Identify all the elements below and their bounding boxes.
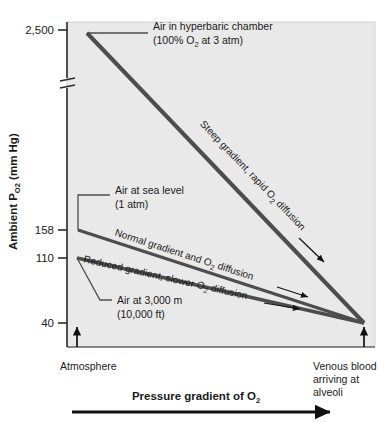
- annotation-hyperbaric-line1: Air in hyperbaric chamber: [153, 20, 273, 32]
- figure-container: 2,500 158 110 40 Ambient PO2 (mm Hg) Air…: [0, 0, 389, 422]
- annotation-altitude-line2: (10,000 ft): [117, 308, 165, 320]
- y-axis-title-post: (mm Hg): [7, 133, 19, 183]
- annotation-sealevel-line1: Air at sea level: [115, 184, 184, 196]
- x-category-label-venous-line2: arriving at: [313, 373, 359, 385]
- plot-panel: [67, 22, 375, 347]
- x-axis-title-pre: Pressure gradient of O: [132, 390, 256, 402]
- annotation-sealevel-line2: (1 atm): [115, 198, 148, 210]
- x-category-label-venous-line1: Venous blood: [313, 360, 377, 372]
- annotation-hyperbaric-post: at 3 atm): [199, 34, 243, 46]
- x-category-label-venous-line3: alveoli: [313, 386, 343, 398]
- annotation-hyperbaric-pre: (100% O: [153, 34, 194, 46]
- oxygen-gradient-chart: 2,500 158 110 40 Ambient PO2 (mm Hg) Air…: [0, 0, 389, 422]
- x-axis-title: Pressure gradient of O2: [132, 390, 260, 405]
- x-axis-title-sub: 2: [256, 396, 260, 405]
- x-category-label-atmosphere: Atmosphere: [60, 360, 117, 372]
- y-tick-label-110: 110: [36, 252, 54, 264]
- y-axis-title: Ambient PO2 (mm Hg): [7, 133, 22, 250]
- annotation-altitude-line1: Air at 3,000 m: [117, 294, 183, 306]
- svg-text:Ambient PO2 (mm Hg): Ambient PO2 (mm Hg): [7, 133, 22, 250]
- y-tick-label-40: 40: [41, 317, 54, 329]
- y-axis-title-pre: Ambient P: [7, 193, 19, 250]
- y-tick-label-158: 158: [35, 224, 54, 236]
- y-tick-label-2500: 2,500: [25, 24, 54, 36]
